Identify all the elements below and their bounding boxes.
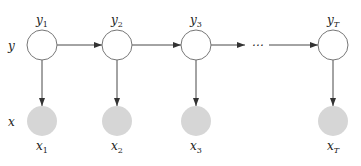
node-y2: y2 bbox=[102, 13, 132, 60]
node-label-y2: y2 bbox=[110, 13, 123, 29]
node-label-y1: y1 bbox=[35, 13, 48, 29]
node-x3: x3 bbox=[181, 106, 211, 155]
node-xT: xT bbox=[318, 106, 348, 155]
observation-circle bbox=[27, 106, 57, 136]
observation-circle bbox=[181, 106, 211, 136]
hidden-state-circle bbox=[318, 30, 348, 60]
hmm-graphical-model: y x y1y2y3yTx1x2x3xT ⋯ bbox=[0, 0, 361, 166]
observation-circle bbox=[318, 106, 348, 136]
node-label-x3: x3 bbox=[190, 139, 202, 155]
node-label-x2: x2 bbox=[111, 139, 123, 155]
node-x1: x1 bbox=[27, 106, 57, 155]
node-x2: x2 bbox=[102, 106, 132, 155]
hidden-state-circle bbox=[102, 30, 132, 60]
row-label-observed: x bbox=[8, 115, 15, 129]
node-y1: y1 bbox=[27, 13, 57, 60]
ellipsis: ⋯ bbox=[251, 38, 263, 52]
node-yT: yT bbox=[318, 13, 348, 60]
hidden-state-circle bbox=[27, 30, 57, 60]
hidden-state-circle bbox=[181, 30, 211, 60]
node-label-xT: xT bbox=[327, 139, 340, 155]
observation-circle bbox=[102, 106, 132, 136]
node-label-y3: y3 bbox=[189, 13, 202, 29]
row-label-hidden: y bbox=[7, 39, 15, 53]
node-y3: y3 bbox=[181, 13, 211, 60]
node-label-yT: yT bbox=[326, 13, 340, 29]
node-label-x1: x1 bbox=[36, 139, 48, 155]
